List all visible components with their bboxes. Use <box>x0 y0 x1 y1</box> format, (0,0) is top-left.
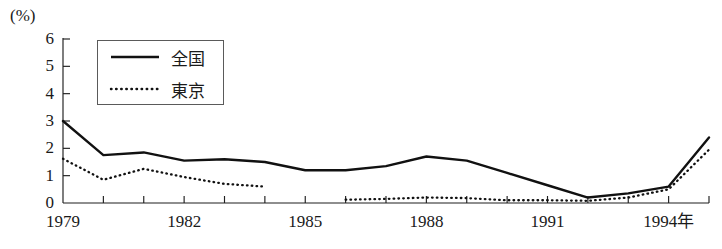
x-axis-tick-label: 1982 <box>167 213 201 230</box>
data-series <box>63 121 709 201</box>
x-axis-tick-label: 1985 <box>288 213 322 230</box>
series-line-tokyo <box>346 150 709 201</box>
solid-line-swatch-icon <box>109 51 161 63</box>
legend-label-tokyo: 東京 <box>171 77 205 102</box>
line-chart: (%) 6543210 197919821985198819911994年 全国… <box>0 0 722 249</box>
legend-entry-tokyo: 東京 <box>98 73 223 105</box>
x-axis-tick-label: 1994年 <box>643 213 694 230</box>
series-line-national <box>63 121 709 198</box>
y-axis-tick-label: 1 <box>28 167 54 184</box>
x-axis-tick-label: 1991 <box>531 213 565 230</box>
x-axis-tick-label: 1988 <box>409 213 443 230</box>
series-line-tokyo <box>63 159 265 187</box>
legend-label-national: 全国 <box>171 45 205 70</box>
chart-plot-area <box>0 0 722 249</box>
x-axis-tick-label: 1979 <box>46 213 80 230</box>
y-axis-tick-label: 5 <box>28 57 54 74</box>
y-axis-tick-label: 4 <box>28 85 54 102</box>
chart-legend: 全国 東京 <box>97 40 224 105</box>
y-axis-tick-label: 3 <box>28 112 54 129</box>
y-axis-tick-label: 2 <box>28 139 54 156</box>
y-axis-tick-label: 6 <box>28 30 54 47</box>
y-axis-tick-label: 0 <box>28 194 54 211</box>
legend-entry-national: 全国 <box>98 41 223 73</box>
dotted-line-swatch-icon <box>109 83 161 95</box>
